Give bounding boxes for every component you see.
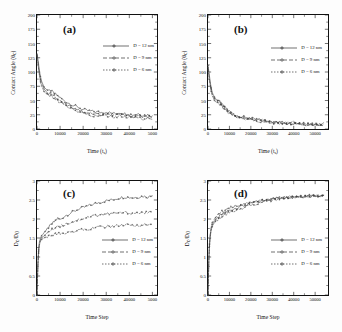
x-tick-label: 30000 — [267, 297, 278, 302]
legend-d: D = 12 nm D = 9 nm D = 6 nm — [271, 237, 322, 267]
legend-label: D = 6 nm — [132, 262, 150, 267]
y-tick-label: 2 — [204, 216, 206, 221]
legend-item: D = 12 nm — [103, 43, 154, 49]
legend-item: D = 12 nm — [271, 45, 322, 51]
x-tick-label: 50000 — [309, 297, 320, 302]
legend-item: D = 9 nm — [271, 249, 322, 255]
y-tick-label: 0 — [33, 127, 35, 132]
y-tick-label: 25 — [201, 112, 206, 117]
legend-b: D = 12 nm D = 9 nm D = 6 nm — [271, 45, 322, 75]
legend-swatch-12nm — [102, 237, 128, 243]
x-tick-label: 40000 — [124, 297, 135, 302]
legend-label: D = 9 nm — [132, 250, 150, 255]
legend-swatch-6nm — [103, 67, 129, 73]
y-tick-label: 0.5 — [200, 274, 206, 279]
legend-item: D = 6 nm — [271, 69, 322, 75]
legend-item: D = 6 nm — [271, 261, 322, 267]
y-tick-label: 125 — [28, 55, 35, 60]
x-tick-label: 40000 — [124, 131, 135, 136]
y-tick-label: 150 — [28, 41, 35, 46]
y-tick-label: 50 — [201, 98, 206, 103]
y-tick-label: 2.5 — [29, 197, 35, 202]
y-tick-label: 100 — [28, 70, 35, 75]
legend-swatch-9nm — [271, 57, 297, 63]
x-tick-label: 20000 — [77, 131, 88, 136]
x-tick-label: 0 — [207, 131, 209, 136]
legend-swatch-12nm — [271, 237, 297, 243]
legend-swatch-9nm — [271, 249, 297, 255]
y-tick-label: 2.5 — [200, 197, 206, 202]
legend-label: D = 12 nm — [133, 44, 154, 49]
y-tick-label: 25 — [30, 112, 35, 117]
panel-a: (a) Contact Angle (θc) 02550751001251501… — [0, 0, 171, 166]
x-axis-label-a: Time (ts) — [36, 148, 158, 155]
x-axis-label-b: Time (ts) — [207, 148, 329, 155]
legend-item: D = 6 nm — [102, 261, 153, 267]
y-tick-label: 75 — [201, 84, 206, 89]
legend-label: D = 9 nm — [301, 58, 319, 63]
y-tick-label: 3 — [33, 179, 35, 184]
legend-swatch-12nm — [103, 43, 129, 49]
x-tick-label: 10000 — [54, 131, 65, 136]
x-tick-label: 10000 — [224, 297, 235, 302]
y-tick-label: 175 — [28, 27, 35, 32]
legend-item: D = 9 nm — [103, 55, 154, 61]
y-tick-label: 50 — [30, 98, 35, 103]
x-tick-label: 0 — [36, 131, 38, 136]
legend-label: D = 12 nm — [301, 46, 322, 51]
x-tick-label: 40000 — [288, 297, 299, 302]
legend-label: D = 9 nm — [301, 250, 319, 255]
legend-label: D = 6 nm — [133, 68, 151, 73]
legend-swatch-9nm — [103, 55, 129, 61]
x-tick-label: 10000 — [224, 131, 235, 136]
legend-swatch-6nm — [102, 261, 128, 267]
y-tick-label: 3 — [204, 179, 206, 184]
x-tick-label: 10000 — [54, 297, 65, 302]
x-axis-label-d: Time Step — [207, 314, 329, 320]
y-tick-label: 175 — [199, 27, 206, 32]
legend-c: D = 12 nm D = 9 nm D = 6 nm — [102, 237, 153, 267]
x-tick-label: 0 — [36, 297, 38, 302]
y-tick-label: 100 — [199, 70, 206, 75]
y-tick-label: 150 — [199, 41, 206, 46]
y-tick-label: 125 — [199, 55, 206, 60]
x-tick-label: 30000 — [267, 131, 278, 136]
legend-label: D = 6 nm — [301, 262, 319, 267]
legend-swatch-6nm — [271, 69, 297, 75]
legend-item: D = 9 nm — [102, 249, 153, 255]
panel-b: (b) Contact Angle (θc) 02550751001251501… — [171, 0, 342, 166]
x-axis-label-c: Time Step — [36, 314, 158, 320]
x-tick-label: 30000 — [100, 131, 111, 136]
x-tick-label: 20000 — [245, 297, 256, 302]
y-tick-label: 0 — [204, 293, 206, 298]
x-tick-label: 5000 — [148, 297, 157, 302]
panel-d: (d) Dc/D0 00.511.522.53 0100002000030000… — [171, 166, 342, 332]
legend-swatch-12nm — [271, 45, 297, 51]
y-tick-label: 200 — [28, 13, 35, 18]
y-axis-label-b: Contact Angle (θc) — [178, 15, 190, 131]
y-tick-label: 0.5 — [29, 274, 35, 279]
figure-container: (a) Contact Angle (θc) 02550751001251501… — [0, 0, 342, 332]
plot-area-c: (c) Dc/D0 00.511.522.53 0100002000030000… — [36, 180, 158, 296]
legend-label: D = 9 nm — [133, 56, 151, 61]
plot-area-d: (d) Dc/D0 00.511.522.53 0100002000030000… — [207, 180, 329, 296]
x-tick-label: 5000 — [148, 131, 157, 136]
legend-swatch-6nm — [271, 261, 297, 267]
y-tick-label: 2 — [33, 216, 35, 221]
y-tick-label: 75 — [30, 84, 35, 89]
legend-swatch-9nm — [102, 249, 128, 255]
y-tick-label: 1 — [204, 254, 206, 259]
x-tick-label: 40000 — [288, 131, 299, 136]
legend-a: D = 12 nm D = 9 nm D = 6 nm — [103, 43, 154, 73]
legend-item: D = 9 nm — [271, 57, 322, 63]
x-tick-label: 0 — [207, 297, 209, 302]
y-axis-label-d: Dc/D0 — [182, 181, 194, 297]
y-tick-label: 200 — [199, 13, 206, 18]
y-tick-label: 0 — [204, 127, 206, 132]
y-tick-label: 1.5 — [200, 236, 206, 241]
x-tick-label: 50000 — [309, 131, 320, 136]
x-tick-label: 20000 — [245, 131, 256, 136]
x-tick-label: 30000 — [100, 297, 111, 302]
legend-item: D = 6 nm — [103, 67, 154, 73]
plot-area-a: (a) Contact Angle (θc) 02550751001251501… — [36, 14, 158, 130]
